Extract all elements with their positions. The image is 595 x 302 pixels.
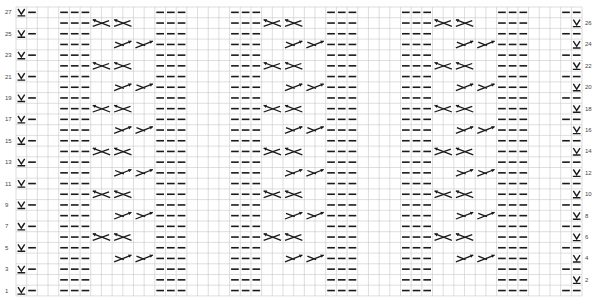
slip-icon xyxy=(573,105,581,112)
slip-icon xyxy=(573,63,581,70)
row-label-left: 9 xyxy=(5,201,8,209)
slip-icon xyxy=(18,52,26,59)
chart-grid xyxy=(0,0,595,302)
slip-icon xyxy=(573,255,581,262)
row-label-left: 27 xyxy=(5,8,12,16)
row-label-left: 25 xyxy=(5,30,12,38)
row-label-right: 2 xyxy=(585,276,588,284)
slip-icon xyxy=(573,191,581,198)
slip-icon xyxy=(18,244,26,251)
row-label-left: 1 xyxy=(5,287,8,295)
row-label-right: 16 xyxy=(585,126,592,134)
row-label-left: 23 xyxy=(5,51,12,59)
slip-icon xyxy=(573,20,581,27)
slip-icon xyxy=(18,287,26,294)
row-label-left: 19 xyxy=(5,94,12,102)
row-label-right: 24 xyxy=(585,40,592,48)
slip-icon xyxy=(18,180,26,187)
slip-icon xyxy=(18,9,26,16)
slip-icon xyxy=(18,266,26,273)
row-label-left: 13 xyxy=(5,158,12,166)
row-label-right: 26 xyxy=(585,19,592,27)
row-label-right: 4 xyxy=(585,254,588,262)
slip-icon xyxy=(573,277,581,284)
row-label-right: 22 xyxy=(585,62,592,70)
slip-icon xyxy=(18,202,26,209)
slip-icon xyxy=(573,212,581,219)
row-label-left: 5 xyxy=(5,244,8,252)
slip-icon xyxy=(573,148,581,155)
slip-icon xyxy=(573,170,581,177)
slip-icon xyxy=(18,137,26,144)
row-label-right: 18 xyxy=(585,105,592,113)
row-label-right: 14 xyxy=(585,147,592,155)
row-label-left: 15 xyxy=(5,137,12,145)
knitting-chart: 2725232119171513119753126242220181614121… xyxy=(0,0,595,302)
slip-icon xyxy=(573,234,581,241)
slip-icon xyxy=(573,41,581,48)
row-label-left: 3 xyxy=(5,265,8,273)
row-label-right: 6 xyxy=(585,233,588,241)
slip-icon xyxy=(18,159,26,166)
row-label-left: 11 xyxy=(5,180,11,188)
row-label-right: 10 xyxy=(585,190,592,198)
slip-icon xyxy=(573,127,581,134)
row-label-left: 17 xyxy=(5,115,12,123)
slip-icon xyxy=(18,73,26,80)
slip-icon xyxy=(18,95,26,102)
slip-icon xyxy=(18,116,26,123)
row-label-right: 20 xyxy=(585,83,592,91)
slip-icon xyxy=(18,223,26,230)
row-label-right: 8 xyxy=(585,212,588,220)
row-label-left: 7 xyxy=(5,222,8,230)
row-label-left: 21 xyxy=(5,73,12,81)
slip-icon xyxy=(18,30,26,37)
row-label-right: 12 xyxy=(585,169,592,177)
slip-icon xyxy=(573,84,581,91)
